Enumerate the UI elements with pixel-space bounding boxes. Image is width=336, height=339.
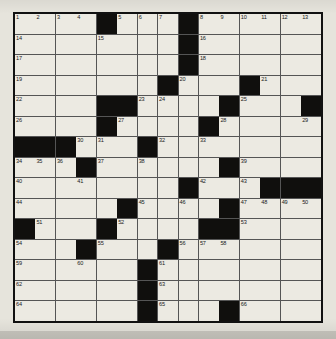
- grid-cell[interactable]: 15: [97, 35, 117, 55]
- grid-cell[interactable]: [97, 178, 117, 198]
- grid-cell[interactable]: 46: [179, 199, 199, 219]
- grid-cell[interactable]: [35, 35, 55, 55]
- grid-cell[interactable]: [260, 96, 280, 116]
- grid-cell[interactable]: [240, 260, 260, 280]
- grid-cell[interactable]: [240, 117, 260, 137]
- grid-cell[interactable]: 18: [199, 55, 219, 75]
- grid-cell[interactable]: [35, 260, 55, 280]
- grid-cell[interactable]: 44: [15, 199, 35, 219]
- grid-cell[interactable]: [179, 117, 199, 137]
- grid-cell[interactable]: [179, 158, 199, 178]
- grid-cell[interactable]: 4: [76, 14, 96, 34]
- grid-cell[interactable]: 5: [117, 14, 137, 34]
- grid-cell[interactable]: [56, 35, 76, 55]
- grid-cell[interactable]: [301, 76, 321, 96]
- grid-cell[interactable]: [117, 240, 137, 260]
- grid-cell[interactable]: [199, 301, 219, 321]
- grid-cell[interactable]: [76, 76, 96, 96]
- grid-cell[interactable]: 11: [260, 14, 280, 34]
- grid-cell[interactable]: [35, 96, 55, 116]
- grid-cell[interactable]: 65: [158, 301, 178, 321]
- grid-cell[interactable]: 54: [15, 240, 35, 260]
- grid-cell[interactable]: 57: [199, 240, 219, 260]
- grid-cell[interactable]: [35, 199, 55, 219]
- grid-cell[interactable]: [281, 240, 301, 260]
- grid-cell[interactable]: [138, 240, 158, 260]
- grid-cell[interactable]: [260, 55, 280, 75]
- grid-cell[interactable]: 27: [117, 117, 137, 137]
- grid-cell[interactable]: [219, 137, 239, 157]
- grid-cell[interactable]: [76, 199, 96, 219]
- grid-cell[interactable]: [97, 260, 117, 280]
- grid-cell[interactable]: 22: [15, 96, 35, 116]
- grid-cell[interactable]: [117, 281, 137, 301]
- grid-cell[interactable]: [76, 96, 96, 116]
- grid-cell[interactable]: 43: [240, 178, 260, 198]
- grid-cell[interactable]: [260, 281, 280, 301]
- grid-cell[interactable]: 52: [117, 219, 137, 239]
- grid-cell[interactable]: [281, 35, 301, 55]
- grid-cell[interactable]: [219, 55, 239, 75]
- grid-cell[interactable]: 45: [138, 199, 158, 219]
- grid-cell[interactable]: [281, 219, 301, 239]
- grid-cell[interactable]: 2: [35, 14, 55, 34]
- grid-cell[interactable]: 63: [158, 281, 178, 301]
- grid-cell[interactable]: 66: [240, 301, 260, 321]
- grid-cell[interactable]: [97, 301, 117, 321]
- grid-cell[interactable]: [97, 199, 117, 219]
- grid-cell[interactable]: [240, 35, 260, 55]
- grid-cell[interactable]: 23: [138, 96, 158, 116]
- grid-cell[interactable]: [281, 260, 301, 280]
- grid-cell[interactable]: [260, 260, 280, 280]
- grid-cell[interactable]: [35, 240, 55, 260]
- grid-cell[interactable]: [260, 158, 280, 178]
- grid-cell[interactable]: [281, 76, 301, 96]
- grid-cell[interactable]: [138, 178, 158, 198]
- grid-cell[interactable]: 26: [15, 117, 35, 137]
- grid-cell[interactable]: 21: [260, 76, 280, 96]
- grid-cell[interactable]: [158, 219, 178, 239]
- grid-cell[interactable]: [301, 219, 321, 239]
- grid-cell[interactable]: [56, 199, 76, 219]
- grid-cell[interactable]: 38: [138, 158, 158, 178]
- grid-cell[interactable]: 49: [281, 199, 301, 219]
- grid-cell[interactable]: [117, 301, 137, 321]
- grid-cell[interactable]: 51: [35, 219, 55, 239]
- grid-cell[interactable]: [138, 76, 158, 96]
- grid-cell[interactable]: [158, 117, 178, 137]
- grid-cell[interactable]: 62: [15, 281, 35, 301]
- grid-cell[interactable]: [158, 55, 178, 75]
- grid-cell[interactable]: 32: [158, 137, 178, 157]
- crossword-grid[interactable]: 1234567891011121314151617181920212223242…: [15, 14, 321, 321]
- grid-cell[interactable]: [199, 199, 219, 219]
- grid-cell[interactable]: [281, 158, 301, 178]
- grid-cell[interactable]: [158, 199, 178, 219]
- grid-cell[interactable]: [199, 158, 219, 178]
- grid-cell[interactable]: [56, 260, 76, 280]
- grid-cell[interactable]: [138, 219, 158, 239]
- grid-cell[interactable]: [97, 55, 117, 75]
- grid-cell[interactable]: [179, 260, 199, 280]
- grid-cell[interactable]: [240, 137, 260, 157]
- grid-cell[interactable]: [56, 240, 76, 260]
- grid-cell[interactable]: [260, 117, 280, 137]
- grid-cell[interactable]: [56, 117, 76, 137]
- grid-cell[interactable]: [301, 158, 321, 178]
- grid-cell[interactable]: [179, 281, 199, 301]
- grid-cell[interactable]: [219, 178, 239, 198]
- grid-cell[interactable]: 6: [138, 14, 158, 34]
- grid-cell[interactable]: 20: [179, 76, 199, 96]
- grid-cell[interactable]: [281, 137, 301, 157]
- grid-cell[interactable]: [260, 301, 280, 321]
- grid-cell[interactable]: [240, 281, 260, 301]
- grid-cell[interactable]: [199, 281, 219, 301]
- grid-cell[interactable]: [158, 178, 178, 198]
- grid-cell[interactable]: [35, 76, 55, 96]
- grid-cell[interactable]: [117, 137, 137, 157]
- grid-cell[interactable]: [199, 96, 219, 116]
- grid-cell[interactable]: [76, 281, 96, 301]
- grid-cell[interactable]: 55: [97, 240, 117, 260]
- grid-cell[interactable]: 19: [15, 76, 35, 96]
- grid-cell[interactable]: 30: [76, 137, 96, 157]
- grid-cell[interactable]: [179, 219, 199, 239]
